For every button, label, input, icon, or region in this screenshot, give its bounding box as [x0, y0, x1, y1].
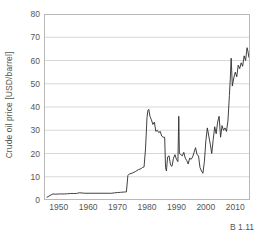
data-series [47, 48, 250, 198]
y-tick-label: 80 [20, 9, 40, 19]
y-axis-tick-labels: 01020304050607080 [16, 14, 40, 200]
y-tick-label: 40 [20, 102, 40, 112]
x-tick-label: 1960 [79, 202, 98, 212]
x-axis-tick-labels: 1950196019701980199020002010 [44, 202, 250, 218]
x-tick-label: 2000 [196, 202, 215, 212]
plot-area [44, 14, 250, 200]
y-tick-label: 10 [20, 172, 40, 182]
x-tick-label: 1950 [49, 202, 68, 212]
y-tick-label: 60 [20, 56, 40, 66]
oil-price-chart-figure: Crude oil price [USD/barrel] 01020304050… [0, 0, 260, 244]
y-tick-label: 20 [20, 149, 40, 159]
plot-svg [44, 14, 250, 200]
gridlines [44, 14, 250, 177]
x-tick-label: 1990 [167, 202, 186, 212]
x-tick-label: 1970 [108, 202, 127, 212]
y-tick-label: 70 [20, 32, 40, 42]
x-tick-label: 1980 [138, 202, 157, 212]
figure-corner-note: B 1.11 [230, 222, 254, 232]
y-tick-label: 30 [20, 125, 40, 135]
y-tick-label: 50 [20, 79, 40, 89]
x-tick-label: 2010 [226, 202, 245, 212]
series-line [47, 48, 250, 198]
y-axis-label-text: Crude oil price [USD/barrel] [4, 52, 14, 159]
y-tick-label: 0 [20, 195, 40, 205]
